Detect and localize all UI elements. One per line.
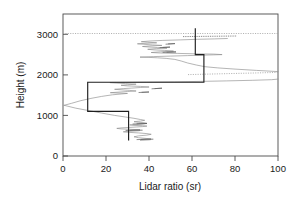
x-tick-label-100: 100 — [270, 163, 286, 174]
retrieval-noise-tick-f — [133, 124, 147, 125]
retrieval-noise-tick-d — [152, 88, 162, 89]
x-tick-label-20: 20 — [101, 163, 112, 174]
retrieval-noise-tick-b — [160, 47, 170, 48]
retrieval-curve-lower — [64, 105, 153, 140]
x-tick-label-40: 40 — [144, 163, 155, 174]
y-tick-label-0: 0 — [53, 150, 58, 161]
x-tick-label-60: 60 — [187, 163, 198, 174]
retrieval-noise-tick-a — [166, 44, 175, 45]
dotted-reference-2000m — [188, 72, 278, 74]
y-axis-ticks — [63, 34, 68, 156]
retrieval-noise-tick-c — [163, 52, 176, 53]
y-tick-label-1000: 1000 — [37, 110, 58, 121]
y-tick-label-2000: 2000 — [37, 69, 58, 80]
x-axis-title: Lidar ratio (sr) — [139, 181, 201, 192]
x-tick-label-80: 80 — [230, 163, 241, 174]
y-tick-label-3000: 3000 — [37, 29, 58, 40]
x-tick-label-0: 0 — [60, 163, 65, 174]
dense-dotted-overlay-2900m — [183, 36, 237, 37]
lidar-ratio-profile-chart: 0 1000 2000 3000 0 20 40 60 80 100 Lidar… — [0, 0, 297, 203]
retrieval-noise-tick-e — [139, 92, 149, 93]
retrieval-curve-oscillation-2500 — [137, 39, 227, 58]
retrieval-curve-mid — [64, 83, 149, 106]
retrieval-noise-tick-h — [137, 139, 151, 140]
y-axis-title: Height (m) — [15, 62, 26, 109]
plot-frame — [63, 14, 278, 156]
chart-figure: 0 1000 2000 3000 0 20 40 60 80 100 Lidar… — [0, 0, 297, 203]
x-axis-ticks — [63, 156, 278, 161]
retrieval-curve-right-descend — [140, 57, 278, 72]
